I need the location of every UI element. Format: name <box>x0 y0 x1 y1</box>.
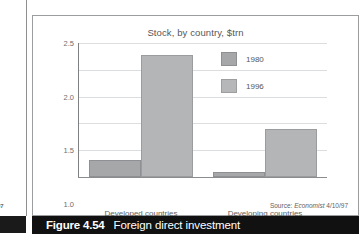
source-note: Source: Economist 4/10/97 <box>270 202 348 209</box>
legend-label-1996: 1996 <box>246 82 264 91</box>
bar-1980-developing <box>213 172 265 177</box>
y-axis-tick-label: 2.5 <box>64 39 74 48</box>
y-axis-tick-label: 1.5 <box>64 146 74 155</box>
chart-legend: 1980 1996 <box>221 52 264 106</box>
page-gutter-line <box>26 0 27 216</box>
legend-swatch-icon-1980 <box>221 52 237 66</box>
bar-1996-developed <box>141 55 193 177</box>
figure-panel: Stock, by country, $trn 00.51.01.52.02.5… <box>32 15 359 216</box>
y-axis-tick-label: 1.0 <box>64 199 74 208</box>
plot-area: 00.51.01.52.02.5Developed countriesDevel… <box>79 43 327 177</box>
gridline: 1.5 <box>79 97 327 98</box>
legend-item-1980: 1980 <box>221 52 264 66</box>
figure-caption-number: Figure 4.54 <box>46 219 105 231</box>
y-axis-tick-label: 2.0 <box>64 92 74 101</box>
bar-1996-developing <box>265 129 317 177</box>
bar-1980-developed <box>89 160 141 177</box>
gridline: 2.5 <box>79 43 327 44</box>
gridline: 0 <box>79 177 327 178</box>
page-edge-marker <box>0 216 26 233</box>
legend-item-1996: 1996 <box>221 79 264 93</box>
gridline: 2.0 <box>79 70 327 71</box>
chart-title: Stock, by country, $trn <box>33 27 358 38</box>
source-prefix: Source: <box>270 202 292 209</box>
source-date: 4/10/97 <box>326 202 348 209</box>
legend-label-1980: 1980 <box>246 55 264 64</box>
figure-caption-bar: Figure 4.54 Foreign direct investment <box>32 216 359 234</box>
page-number: 97 <box>0 203 3 209</box>
source-publication: Economist <box>294 202 324 209</box>
figure-caption-text: Foreign direct investment <box>114 219 241 231</box>
legend-swatch-icon-1996 <box>221 79 237 93</box>
gridline: 1.0 <box>79 123 327 124</box>
